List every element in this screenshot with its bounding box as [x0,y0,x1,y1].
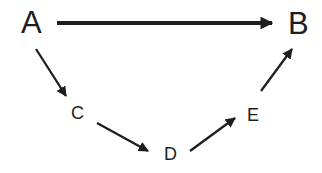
diagram-edges [0,0,322,173]
node-a: A [21,7,42,38]
node-d: D [164,145,177,163]
node-b: B [288,8,309,39]
edge-e-b [261,49,292,91]
edge-d-e [190,118,235,151]
node-c: C [71,104,84,122]
edge-c-d [97,123,148,151]
node-e: E [247,106,259,124]
edge-a-c [36,49,66,96]
